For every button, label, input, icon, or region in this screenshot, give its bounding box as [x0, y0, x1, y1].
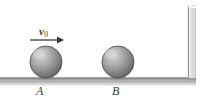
- diagram-canvas: [0, 0, 213, 109]
- ball-a-label: A: [36, 85, 43, 97]
- velocity-label: v0: [39, 26, 48, 37]
- ball-a: [30, 46, 62, 78]
- ball-b-highlight: [105, 49, 118, 59]
- velocity-subscript: 0: [44, 30, 48, 39]
- physics-diagram: v0 A B: [0, 0, 213, 109]
- wall: [188, 5, 196, 80]
- ball-a-highlight: [33, 49, 46, 59]
- ball-b: [102, 46, 134, 78]
- arrow-head-icon: [57, 37, 64, 44]
- ball-b-label: B: [112, 85, 119, 97]
- ground-surface: [0, 78, 196, 87]
